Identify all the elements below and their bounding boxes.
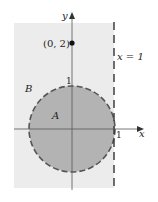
- y-axis-arrow-icon: [69, 12, 75, 19]
- region-b-label: B: [24, 83, 32, 94]
- diagram-canvas: y x (0, 2) x = 1 B A 1 1: [0, 0, 158, 202]
- region-a-label: A: [51, 110, 59, 121]
- y-axis-label: y: [61, 10, 68, 21]
- y-tick-1-label: 1: [66, 76, 72, 86]
- point-label: (0, 2): [43, 38, 70, 49]
- x-axis-label: x: [139, 128, 145, 139]
- line-label: x = 1: [117, 51, 144, 62]
- point-0-2: [69, 40, 74, 45]
- x-tick-1-label: 1: [116, 130, 122, 140]
